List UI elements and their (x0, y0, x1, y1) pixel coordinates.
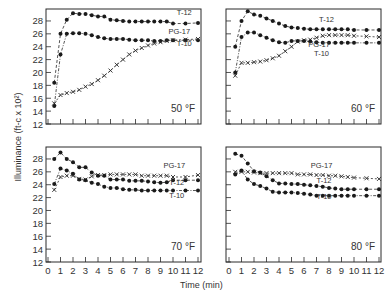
dot-marker (308, 27, 312, 31)
dot-marker (165, 20, 169, 24)
x-tick-label: 12 (374, 265, 385, 276)
x-marker (283, 49, 287, 53)
dot-marker (196, 21, 200, 25)
dot-marker (308, 192, 312, 196)
x-marker (346, 175, 350, 179)
x-marker (315, 36, 319, 40)
series-line-pg-17 (235, 172, 379, 179)
series-label: PG-17 (311, 161, 333, 170)
dot-marker (352, 187, 356, 191)
dot-marker (377, 194, 381, 198)
x-tick-label: 5 (289, 265, 294, 276)
dot-marker (84, 12, 88, 16)
dot-marker (296, 26, 300, 30)
x-tick-label: 2 (251, 265, 256, 276)
series-label: T-10 (177, 39, 192, 48)
y-tick-label: 22 (32, 192, 43, 203)
y-tick-label: 14 (32, 244, 43, 255)
dot-marker (283, 41, 287, 45)
dot-marker (59, 52, 63, 56)
series-label: T-12 (319, 15, 334, 24)
dot-marker (134, 188, 138, 192)
y-tick-label: 14 (32, 106, 43, 117)
dot-marker (265, 187, 269, 191)
dot-marker (365, 187, 369, 191)
dot-marker (84, 165, 88, 169)
dot-marker (277, 22, 281, 26)
dot-marker (296, 191, 300, 195)
dot-marker (327, 186, 331, 190)
dot-marker (246, 178, 250, 182)
dot-marker (246, 161, 250, 165)
dot-marker (127, 179, 131, 183)
y-tick-label: 28 (32, 15, 43, 26)
x-tick-label: 3 (264, 265, 269, 276)
dot-marker (283, 190, 287, 194)
x-tick-label: 7 (133, 265, 138, 276)
x-marker (127, 52, 131, 56)
series-label: T-12 (316, 176, 331, 185)
dot-marker (340, 27, 344, 31)
dot-marker (290, 39, 294, 43)
x-marker (109, 69, 113, 73)
dot-marker (59, 151, 63, 155)
dot-marker (52, 182, 56, 186)
x-tick-label: 5 (108, 265, 113, 276)
dot-marker (277, 190, 281, 194)
dot-marker (140, 38, 144, 42)
dot-marker (71, 31, 75, 35)
series-label: PG-17 (168, 27, 190, 36)
x-marker (352, 34, 356, 38)
y-tick-label: 12 (32, 257, 43, 268)
dot-marker (315, 27, 319, 31)
x-tick-label: 8 (145, 265, 150, 276)
dot-marker (265, 36, 269, 40)
panel-top-right: T-12PG-17T-1060 °F (226, 9, 381, 124)
series-label: T-10 (314, 49, 329, 58)
dot-marker (77, 12, 81, 16)
dot-marker (258, 14, 262, 18)
dot-marker (184, 22, 188, 26)
x-marker (65, 174, 69, 178)
x-tick-label: 11 (181, 265, 191, 276)
dot-marker (283, 181, 287, 185)
dot-marker (71, 11, 75, 15)
x-marker (377, 177, 381, 181)
dot-marker (240, 19, 244, 23)
x-marker (340, 33, 344, 37)
x-marker (290, 45, 294, 49)
dot-marker (77, 165, 81, 169)
x-marker (140, 46, 144, 50)
x-marker (77, 88, 81, 92)
x-marker (90, 82, 94, 86)
dot-marker (333, 27, 337, 31)
dot-marker (140, 189, 144, 193)
dot-marker (321, 27, 325, 31)
dot-marker (271, 19, 275, 23)
dot-marker (152, 180, 156, 184)
x-tick-label: 9 (339, 265, 344, 276)
dot-marker (115, 178, 119, 182)
dot-marker (84, 178, 88, 182)
dot-marker (327, 27, 331, 31)
series-line-t-12 (235, 154, 379, 189)
dot-marker (77, 178, 81, 182)
dot-marker (340, 187, 344, 191)
dot-marker (171, 22, 175, 26)
dot-marker (134, 179, 138, 183)
temperature-label: 80 °F (351, 241, 375, 252)
y-tick-label: 24 (32, 179, 43, 190)
dot-marker (296, 182, 300, 186)
dot-marker (290, 25, 294, 29)
dot-marker (71, 160, 75, 164)
dot-marker (90, 181, 94, 185)
dot-marker (102, 185, 106, 189)
dot-marker (271, 38, 275, 42)
dot-marker (333, 194, 337, 198)
x-marker (59, 93, 63, 97)
x-marker (146, 43, 150, 47)
series-label: T-12 (169, 178, 184, 187)
dot-marker (283, 24, 287, 28)
dot-marker (90, 13, 94, 17)
x-tick-label: 11 (362, 265, 372, 276)
